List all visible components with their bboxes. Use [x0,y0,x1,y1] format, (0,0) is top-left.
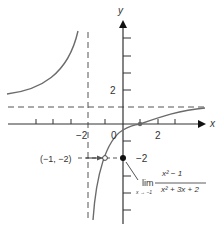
x-axis-label: x [209,118,216,129]
marked-point [120,155,126,161]
y-tick-label-2: 2 [110,85,116,96]
y-axis-label: y [117,5,124,16]
y-tick-label-neg2: −2 [136,153,148,164]
x-tick-label-neg2: −2 [76,130,88,141]
limit-arrow-line [126,162,138,180]
curve-left-branch [7,31,78,94]
x-tick-label-0: 0 [111,130,117,141]
y-axis-arrow-icon [119,20,127,28]
label-arrow-icon [97,156,103,161]
limit-subscript: x → −1 [135,189,152,195]
curve-right-branch [93,108,205,220]
x-tick-label-2: 2 [155,130,161,141]
limit-numerator: x² − 1 [161,169,182,178]
hole-point [103,156,108,161]
limit-lim: lim [142,178,154,188]
limit-denominator: x² + 3x + 2 [160,185,199,194]
x-intercept-point [138,122,142,126]
function-graph: y x −2 0 2 2 −2 (−1, −2) lim x → −1 x² −… [0,0,222,227]
hole-label: (−1, −2) [40,154,72,164]
x-axis-arrow-icon [198,120,206,128]
